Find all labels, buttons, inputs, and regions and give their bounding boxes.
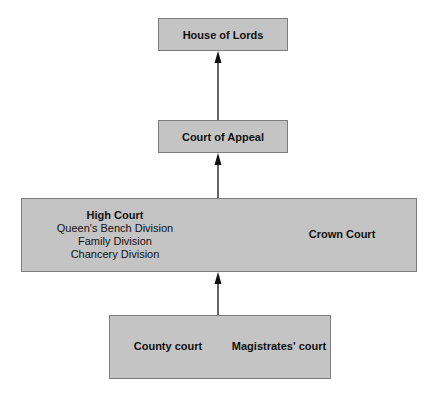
division-queens-bench: Queen's Bench Division	[22, 222, 208, 235]
node-label-house-of-lords: House of Lords	[183, 29, 264, 41]
arrow-bottom-to-middle	[215, 272, 222, 315]
node-label-magistrates-court: Magistrates' court	[226, 340, 332, 352]
node-label-county-court: County court	[118, 340, 218, 352]
arrow-appeal-to-lords	[215, 51, 222, 120]
node-court-of-appeal: Court of Appeal	[158, 120, 288, 153]
division-family: Family Division	[22, 235, 208, 248]
node-county-magistrates: County court Magistrates' court	[109, 315, 331, 379]
node-high-court-crown-court: High Court Queen's Bench Division Family…	[21, 198, 417, 272]
division-chancery: Chancery Division	[22, 248, 208, 261]
node-label-high-court: High Court	[22, 209, 208, 222]
node-label-crown-court: Crown Court	[272, 228, 412, 240]
node-house-of-lords: House of Lords	[158, 18, 288, 51]
node-label-court-of-appeal: Court of Appeal	[182, 131, 264, 143]
high-court-group: High Court Queen's Bench Division Family…	[22, 209, 208, 261]
arrow-middle-to-appeal	[215, 153, 222, 198]
